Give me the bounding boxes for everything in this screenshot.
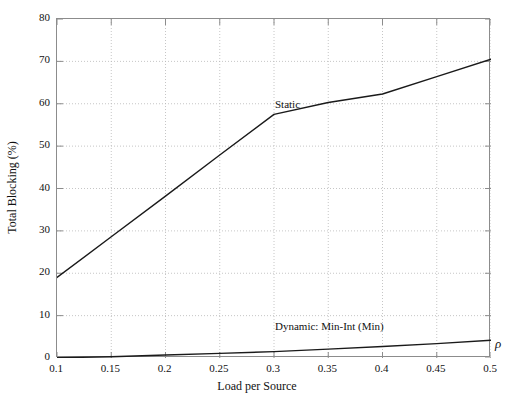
x-tick-label: 0.45	[416, 363, 456, 374]
y-tick-label: 30	[20, 224, 50, 235]
x-tick-label: 0.5	[470, 363, 510, 374]
x-tick-label: 0.15	[90, 363, 130, 374]
x-tick-label: 0.35	[307, 363, 347, 374]
y-tick-label: 10	[20, 309, 50, 320]
plot-area	[56, 18, 490, 357]
x-tick-label: 0.1	[36, 363, 76, 374]
x-tick-label: 0.4	[362, 363, 402, 374]
series-annotation-0: Static	[275, 98, 300, 110]
y-tick-label: 70	[20, 54, 50, 65]
y-tick-label: 80	[20, 12, 50, 23]
x-axis-label: Load per Source	[0, 379, 514, 394]
y-axis-label: Total Blocking (%)	[5, 141, 20, 233]
x-tick-label: 0.2	[145, 363, 185, 374]
chart-figure: Total Blocking (%) 01020304050607080 Sta…	[0, 0, 514, 403]
plot-canvas	[57, 19, 491, 358]
y-tick-label: 60	[20, 97, 50, 108]
y-tick-label: 0	[20, 351, 50, 362]
x-tick-label: 0.3	[253, 363, 293, 374]
x-tick-label: 0.25	[199, 363, 239, 374]
y-axis-label-container: Total Blocking (%)	[2, 0, 22, 375]
y-tick-label: 20	[20, 266, 50, 277]
y-tick-label: 40	[20, 182, 50, 193]
y-tick-label: 50	[20, 139, 50, 150]
grid-lines	[57, 19, 491, 358]
series-annotation-1: Dynamic: Min-Int (Min)	[275, 320, 384, 332]
x-axis-symbol-rho: ρ	[495, 336, 501, 352]
